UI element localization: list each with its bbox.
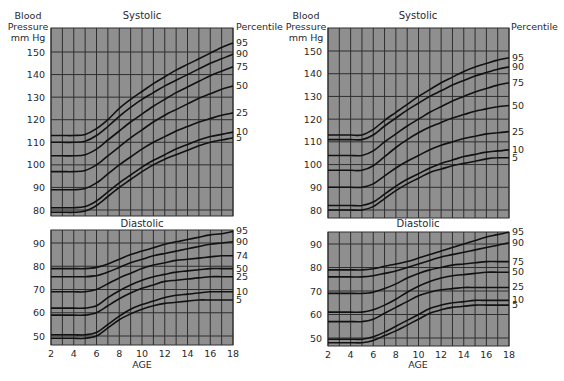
left-diastolic-xtick-label: 4 — [71, 348, 77, 359]
left-systolic-percentile-label: 95 — [236, 37, 248, 48]
left-diastolic-xtick-label: 10 — [136, 348, 148, 359]
left-diastolic-xtick-label: 16 — [204, 348, 216, 359]
right-diastolic-percentile-label: 95 — [512, 226, 524, 237]
left-diastolic-plot: 5060708090959074502510524681012141618 — [33, 225, 248, 359]
right-systolic-plot: 80901001101201301401509590755025105 — [304, 28, 524, 218]
left-systolic-ytick-label: 120 — [27, 114, 45, 125]
left-diastolic-xtick-label: 8 — [116, 348, 122, 359]
left-systolic-ytick-label: 90 — [33, 182, 45, 193]
right-diastolic-plot: 5060708090959075502510524681012141618 — [310, 226, 524, 360]
left-systolic-percentile-label: 5 — [236, 132, 242, 143]
right-systolic-ytick-label: 90 — [310, 182, 322, 193]
left-diastolic-xtick-label: 12 — [159, 348, 171, 359]
right-xlabel: AGE — [408, 359, 428, 370]
left-diastolic-title: Diastolic — [121, 218, 164, 229]
left-ylabel-line-3: mm Hg — [11, 32, 46, 43]
charts-canvas: Blood Pressure mm Hg Systolic Percentile… — [0, 0, 564, 381]
right-diastolic-xtick-label: 4 — [348, 349, 354, 360]
left-systolic-title: Systolic — [123, 10, 162, 21]
right-systolic-ytick-label: 120 — [304, 114, 322, 125]
right-diastolic-ytick-label: 70 — [310, 286, 322, 297]
left-diastolic-ytick-label: 50 — [33, 331, 45, 342]
right-systolic-ytick-label: 80 — [310, 205, 322, 216]
left-panel: Blood Pressure mm Hg Systolic Percentile… — [8, 10, 283, 370]
right-systolic-ytick-label: 100 — [304, 159, 322, 170]
left-systolic-percentile-label: 75 — [236, 61, 248, 72]
left-diastolic-percentile-label: 74 — [236, 250, 248, 261]
right-systolic-percentile-label: 5 — [512, 152, 518, 163]
right-ylabel-line-1: Blood — [293, 10, 320, 21]
right-diastolic-xtick-label: 6 — [370, 349, 376, 360]
left-diastolic-ytick-label: 60 — [33, 307, 45, 318]
right-diastolic-percentile-label: 75 — [512, 256, 524, 267]
right-diastolic-ytick-label: 80 — [310, 262, 322, 273]
right-ylabel-line-3: mm Hg — [289, 32, 324, 43]
right-systolic-percentile-label: 25 — [512, 126, 524, 137]
right-panel: Blood Pressure mm Hg Systolic Percentile… — [286, 10, 558, 370]
right-systolic-ytick-label: 140 — [304, 68, 322, 79]
left-systolic-ytick-label: 130 — [27, 92, 45, 103]
left-diastolic-xtick-label: 2 — [48, 348, 54, 359]
right-diastolic-ytick-label: 90 — [310, 239, 322, 250]
right-systolic-ytick-label: 130 — [304, 91, 322, 102]
left-systolic-ytick-label: 140 — [27, 69, 45, 80]
right-diastolic-ytick-label: 60 — [310, 309, 322, 320]
right-percentile-title: Percentile — [511, 21, 558, 32]
left-systolic-percentile-label: 90 — [236, 48, 248, 59]
left-systolic-ytick-label: 100 — [27, 159, 45, 170]
right-diastolic-percentile-label: 90 — [512, 237, 524, 248]
right-diastolic-xtick-label: 12 — [435, 349, 447, 360]
right-systolic-percentile-label: 75 — [512, 77, 524, 88]
left-diastolic-xtick-label: 6 — [93, 348, 99, 359]
right-diastolic-xtick-label: 18 — [503, 349, 515, 360]
right-diastolic-xtick-label: 16 — [480, 349, 492, 360]
right-systolic-title: Systolic — [399, 10, 438, 21]
blood-pressure-percentile-charts: Blood Pressure mm Hg Systolic Percentile… — [0, 0, 564, 381]
left-diastolic-xtick-label: 14 — [181, 348, 193, 359]
left-systolic-percentile-label: 50 — [236, 80, 248, 91]
right-diastolic-xtick-label: 8 — [393, 349, 399, 360]
right-systolic-ytick-label: 110 — [304, 136, 322, 147]
right-systolic-percentile-label: 50 — [512, 100, 524, 111]
right-diastolic-xtick-label: 14 — [458, 349, 470, 360]
right-diastolic-percentile-label: 5 — [512, 299, 518, 310]
left-systolic-ytick-label: 110 — [27, 137, 45, 148]
left-systolic-ytick-label: 80 — [33, 205, 45, 216]
right-diastolic-xtick-label: 2 — [325, 349, 331, 360]
left-diastolic-percentile-label: 95 — [236, 225, 248, 236]
right-systolic-percentile-label: 90 — [512, 61, 524, 72]
left-systolic-percentile-label: 25 — [236, 107, 248, 118]
left-diastolic-percentile-label: 25 — [236, 271, 248, 282]
left-diastolic-ytick-label: 70 — [33, 284, 45, 295]
left-diastolic-ytick-label: 90 — [33, 238, 45, 249]
right-systolic-ytick-label: 150 — [304, 46, 322, 57]
right-diastolic-ytick-label: 50 — [310, 333, 322, 344]
left-systolic-plot: 80901001101201301401509590755025105 — [27, 28, 248, 216]
right-diastolic-title: Diastolic — [397, 218, 440, 229]
left-diastolic-percentile-label: 90 — [236, 236, 248, 247]
right-ylabel-line-2: Pressure — [286, 21, 327, 32]
right-diastolic-percentile-label: 25 — [512, 281, 524, 292]
right-diastolic-xtick-label: 10 — [412, 349, 424, 360]
left-xlabel: AGE — [132, 359, 152, 370]
left-ylabel-line-2: Pressure — [8, 21, 49, 32]
left-diastolic-ytick-label: 80 — [33, 261, 45, 272]
left-systolic-ytick-label: 150 — [27, 47, 45, 58]
left-percentile-title: Percentile — [236, 21, 283, 32]
left-diastolic-percentile-label: 5 — [236, 294, 242, 305]
right-diastolic-percentile-label: 50 — [512, 266, 524, 277]
left-diastolic-xtick-label: 18 — [227, 348, 239, 359]
left-ylabel-line-1: Blood — [15, 10, 42, 21]
